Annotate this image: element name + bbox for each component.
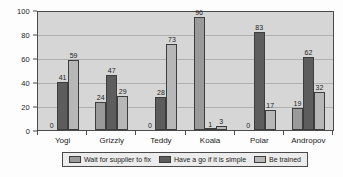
bar-slot: 59 [68, 12, 79, 130]
bar[interactable] [303, 57, 314, 130]
bar[interactable] [57, 82, 68, 130]
bar-value-label: 41 [59, 74, 67, 82]
bar-slot: 47 [106, 12, 117, 130]
x-tick-mark [135, 131, 136, 135]
bar-group: 08317 [235, 12, 284, 130]
bar[interactable] [216, 126, 227, 130]
bar-value-label: 0 [50, 122, 54, 130]
x-tick-label: Yogi [55, 136, 70, 145]
bar[interactable] [254, 32, 265, 130]
bar-value-label: 19 [294, 100, 302, 108]
bar[interactable] [314, 92, 325, 130]
bar-value-label: 0 [148, 122, 152, 130]
bar-slot: 17 [265, 12, 276, 130]
y-axis: 020406080100 [0, 11, 37, 131]
bar-slot: 28 [155, 12, 166, 130]
bar-slot: 0 [144, 12, 155, 130]
x-tick-label: Koala [200, 136, 220, 145]
bar[interactable] [106, 75, 117, 130]
bar-value-label: 0 [246, 122, 250, 130]
bar-chart: 020406080100 041592447290287396130831719… [0, 0, 343, 177]
legend-swatch-icon [254, 156, 266, 163]
x-tick-label: Polar [250, 136, 269, 145]
bar-value-label: 62 [305, 49, 313, 57]
bar-value-label: 47 [108, 67, 116, 75]
bar-value-label: 24 [97, 94, 105, 102]
bar[interactable] [265, 110, 276, 130]
bar-value-label: 1 [208, 121, 212, 129]
bar-slot: 32 [314, 12, 325, 130]
x-tick-mark [332, 131, 333, 135]
y-tick-label: 0 [26, 127, 30, 136]
bar-value-label: 83 [255, 24, 263, 32]
x-tick-label: Teddy [150, 136, 171, 145]
x-tick-mark [185, 131, 186, 135]
legend-swatch-icon [159, 156, 171, 163]
x-axis: YogiGrizzlyTeddyKoalaPolarAndropov [37, 131, 334, 149]
y-tick-label: 60 [21, 55, 30, 64]
bar-slot: 3 [216, 12, 227, 130]
bar-value-label: 28 [157, 89, 165, 97]
x-tick-label: Andropov [291, 136, 325, 145]
bar[interactable] [117, 96, 128, 130]
bar-slot: 0 [243, 12, 254, 130]
x-tick-mark [37, 131, 38, 135]
bar-value-label: 73 [168, 36, 176, 44]
legend-swatch-icon [69, 156, 81, 163]
bar[interactable] [155, 97, 166, 130]
bar[interactable] [292, 108, 303, 130]
bars-layer: 0415924472902873961308317196232 [38, 12, 333, 130]
bar-group: 9613 [186, 12, 235, 130]
y-tick-label: 80 [21, 31, 30, 40]
x-tick-mark [234, 131, 235, 135]
bar-slot: 96 [194, 12, 205, 130]
bar-slot: 24 [95, 12, 106, 130]
x-tick-mark [86, 131, 87, 135]
x-tick-mark [283, 131, 284, 135]
legend-entry[interactable]: Be trained [254, 156, 301, 163]
bar[interactable] [95, 102, 106, 130]
bar-value-label: 32 [316, 84, 324, 92]
bar[interactable] [68, 60, 79, 130]
bar-value-label: 17 [266, 102, 274, 110]
bar-value-label: 59 [70, 52, 78, 60]
legend-label: Wait for supplier to fix [84, 156, 151, 163]
bar-slot: 73 [166, 12, 177, 130]
bar-slot: 0 [46, 12, 57, 130]
bar-group: 244729 [87, 12, 136, 130]
chart-legend: Wait for supplier to fixHave a go if it … [62, 152, 308, 167]
bar-group: 02873 [136, 12, 185, 130]
bar-slot: 83 [254, 12, 265, 130]
y-tick-label: 100 [17, 7, 30, 16]
bar-slot: 29 [117, 12, 128, 130]
legend-label: Have a go if it is simple [174, 156, 246, 163]
bar[interactable] [166, 44, 177, 130]
x-tick-label: Grizzly [100, 136, 124, 145]
bar-value-label: 29 [119, 88, 127, 96]
bar-value-label: 96 [195, 9, 203, 17]
legend-entry[interactable]: Have a go if it is simple [159, 156, 246, 163]
y-tick-label: 40 [21, 79, 30, 88]
legend-label: Be trained [269, 156, 301, 163]
bar-slot: 19 [292, 12, 303, 130]
bar-slot: 62 [303, 12, 314, 130]
bar[interactable] [194, 17, 205, 130]
bar-value-label: 3 [219, 118, 223, 126]
bar-slot: 1 [205, 12, 216, 130]
y-tick-label: 20 [21, 103, 30, 112]
bar-slot: 41 [57, 12, 68, 130]
bar-group: 196232 [284, 12, 333, 130]
legend-entry[interactable]: Wait for supplier to fix [69, 156, 151, 163]
bar-group: 04159 [38, 12, 87, 130]
